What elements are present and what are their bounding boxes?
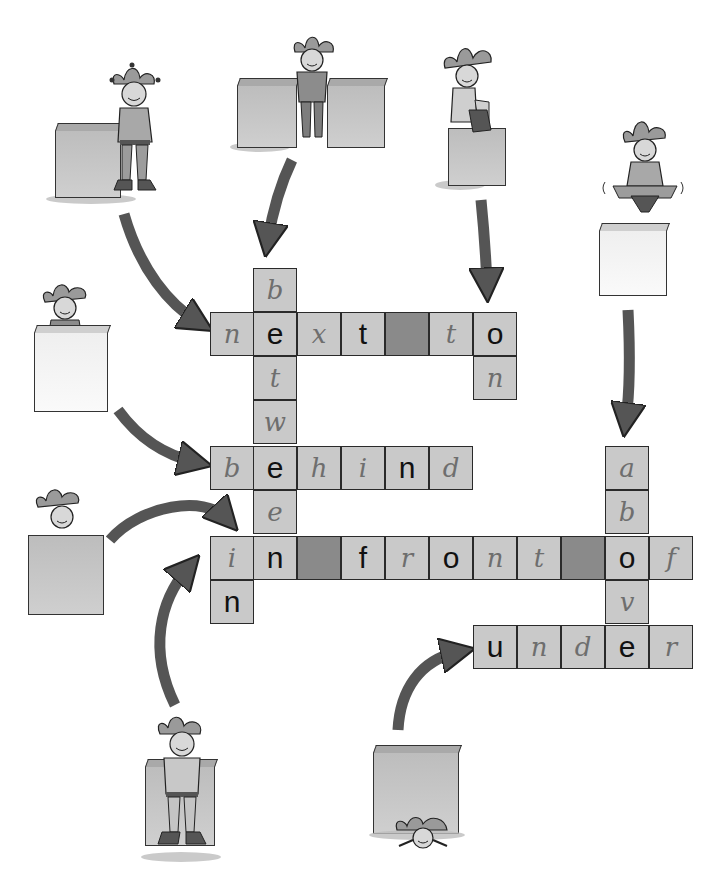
crossword-cell[interactable]: n (473, 356, 517, 400)
arrow-on (481, 200, 487, 285)
crossword-cell[interactable]: h (297, 446, 341, 490)
crossword-cell[interactable]: t (429, 312, 473, 356)
crossword-cell[interactable]: e (605, 625, 649, 669)
crossword-cell[interactable]: t (341, 312, 385, 356)
scene-between (230, 30, 390, 160)
crossword-cell[interactable]: r (385, 536, 429, 580)
jester-icon (140, 712, 225, 862)
crossword-cell[interactable]: b (210, 446, 254, 490)
crossword-cell[interactable]: u (473, 625, 517, 669)
crossword-worksheet: bnexttontwbehindeinfrontofnabvunder (0, 0, 718, 878)
arrow-behind (118, 410, 195, 462)
crossword-cell[interactable]: r (649, 625, 693, 669)
crossword-cell[interactable]: t (253, 356, 297, 400)
jester-icon (285, 32, 340, 147)
crossword-cell[interactable]: n (210, 312, 254, 356)
crossword-cell[interactable]: o (605, 536, 649, 580)
crossword-cell[interactable]: a (605, 446, 649, 490)
arrow-between (268, 160, 292, 240)
arrow-in (110, 506, 226, 540)
crossword-cell[interactable]: b (605, 490, 649, 534)
crossword-cell[interactable]: n (517, 625, 561, 669)
scene-behind (25, 280, 120, 420)
crossword-cell[interactable]: n (253, 536, 297, 580)
jester-icon (391, 810, 461, 855)
crossword-cell[interactable]: o (473, 312, 517, 356)
arrow-above (626, 310, 629, 420)
crossword-blocked-cell (297, 536, 341, 580)
crossword-cell[interactable]: f (341, 536, 385, 580)
crossword-cell[interactable]: b (253, 268, 297, 312)
arrow-next-to (124, 214, 198, 322)
crossword-cell[interactable]: f (649, 536, 693, 580)
crossword-cell[interactable]: n (473, 536, 517, 580)
crossword-cell[interactable]: n (385, 446, 429, 490)
crossword-cell[interactable]: i (210, 536, 254, 580)
scene-on (435, 40, 515, 190)
crossword-cell[interactable]: w (253, 400, 297, 444)
scene-under (365, 740, 475, 860)
crossword-cell[interactable]: e (253, 312, 297, 356)
crossword-cell[interactable]: e (253, 446, 297, 490)
jester-icon (595, 112, 690, 217)
scene-above (595, 112, 695, 302)
crossword-cell[interactable]: n (210, 580, 254, 624)
scene-next-to (40, 60, 220, 210)
crossword-cell[interactable]: t (517, 536, 561, 580)
crossword-cell[interactable]: d (429, 446, 473, 490)
scene-in-front-of (135, 712, 235, 862)
crossword-cell[interactable]: x (297, 312, 341, 356)
scene-in (25, 485, 115, 615)
crossword-cell[interactable]: i (341, 446, 385, 490)
jester-icon (439, 40, 509, 135)
crossword-blocked-cell (561, 536, 605, 580)
crossword-cell[interactable]: v (605, 580, 649, 624)
crossword-cell[interactable]: d (561, 625, 605, 669)
jester-icon (102, 62, 172, 197)
crossword-cell[interactable]: e (253, 490, 297, 534)
arrow-under (398, 652, 458, 730)
arrow-in-front-of (160, 568, 188, 705)
crossword-blocked-cell (385, 312, 429, 356)
crossword-cell[interactable]: o (429, 536, 473, 580)
